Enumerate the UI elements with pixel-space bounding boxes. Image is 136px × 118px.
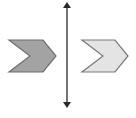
preimage-chevron bbox=[9, 40, 56, 72]
image-chevron bbox=[82, 40, 128, 72]
reflection-diagram bbox=[0, 0, 136, 118]
diagram-canvas bbox=[0, 0, 136, 118]
